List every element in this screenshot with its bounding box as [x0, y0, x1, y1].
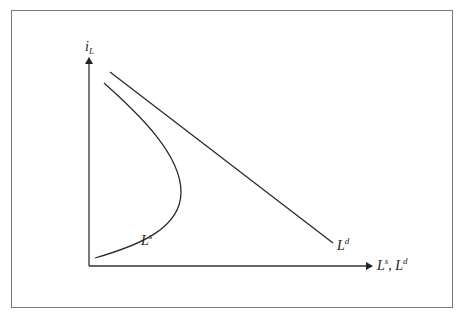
- ld-curve-label: Ld: [336, 236, 350, 253]
- y-axis-label: iL: [85, 39, 94, 56]
- ls-curve-label: Ls: [140, 231, 153, 248]
- diagram-canvas: iL Ls Ld Ls, Ld: [0, 0, 465, 319]
- demand-curve-ld: [110, 72, 333, 243]
- supply-curve-ls: [95, 83, 181, 258]
- x-axis-label: Ls, Ld: [376, 256, 408, 273]
